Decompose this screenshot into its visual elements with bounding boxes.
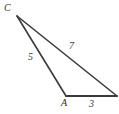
side-length-label-ab: 3	[89, 99, 94, 109]
side-length-label-ca: 5	[28, 52, 33, 62]
geometry-figure: C A 5 7 3	[0, 0, 119, 114]
side-c-to-a	[17, 16, 66, 96]
vertex-label-c: C	[4, 3, 11, 13]
side-length-label-cb: 7	[69, 41, 74, 51]
triangle-drawing	[0, 0, 119, 114]
vertex-label-a: A	[61, 98, 67, 108]
